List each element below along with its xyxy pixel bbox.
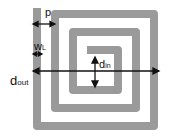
p-label-text: p: [45, 6, 51, 18]
din-label-subscript: in: [105, 62, 110, 69]
wl-label-subscript: L: [42, 44, 46, 51]
dout-label-subscript: out: [17, 78, 28, 87]
dout-arrowhead-right: [153, 68, 159, 74]
wl-label: wL: [34, 41, 46, 52]
p-label: p: [45, 7, 51, 18]
din-label: din: [99, 59, 111, 70]
spiral-inductor-diagram: [0, 0, 170, 140]
wl-arrowhead-right: [39, 52, 43, 56]
din-arrowhead-up: [92, 57, 98, 63]
dout-label: dout: [10, 74, 28, 87]
wl-label-text: w: [34, 40, 42, 52]
